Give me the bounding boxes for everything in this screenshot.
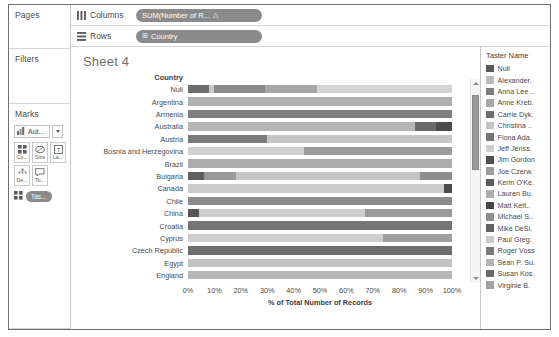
legend-item[interactable]: Michael S.. (486, 211, 550, 222)
stacked-bar[interactable] (188, 234, 452, 242)
scrollbar-thumb[interactable] (472, 95, 479, 170)
detail-button[interactable]: De... (14, 165, 30, 186)
bar-segment[interactable] (267, 135, 452, 143)
stacked-bar[interactable] (188, 221, 452, 229)
bar-segment[interactable] (365, 209, 452, 217)
tooltip-button[interactable]: To... (32, 165, 48, 186)
stacked-bar[interactable] (188, 110, 452, 118)
stacked-bar[interactable] (188, 147, 452, 155)
row-header-label[interactable]: Armenia (71, 110, 183, 119)
bar-segment[interactable] (188, 246, 452, 254)
row-header-label[interactable]: Brazil (71, 160, 183, 169)
row-header-label[interactable]: Argentina (71, 98, 183, 107)
legend-item[interactable]: Jeff Jenss. (486, 143, 550, 154)
row-header-label[interactable]: England (71, 271, 183, 280)
bar-segment[interactable] (188, 110, 452, 118)
stacked-bar[interactable] (188, 184, 452, 192)
bar-segment[interactable] (415, 122, 436, 130)
legend-item[interactable]: Roger Voss (486, 245, 550, 256)
bar-segment[interactable] (444, 184, 452, 192)
row-header-label[interactable]: Croatia (71, 222, 183, 231)
legend-item[interactable]: Anna Lee .. (486, 86, 550, 97)
label-button[interactable]: T La... (50, 142, 66, 163)
row-header-label[interactable]: Bulgaria (71, 172, 183, 181)
bar-segment[interactable] (304, 147, 452, 155)
bar-segment[interactable] (188, 147, 304, 155)
bar-segment[interactable] (383, 234, 452, 242)
legend-item[interactable]: Mike DeSi. (486, 222, 550, 233)
columns-shelf[interactable]: Columns SUM(Number of R... △ (71, 5, 550, 26)
bar-segment[interactable] (188, 234, 383, 242)
legend-item[interactable]: Anne Kreb. (486, 97, 550, 108)
bar-segment[interactable] (204, 172, 236, 180)
x-axis-title[interactable]: % of Total Number of Records (178, 298, 462, 307)
bar-segment[interactable] (199, 209, 365, 217)
bar-segment[interactable] (188, 221, 452, 229)
bar-segment[interactable] (188, 159, 452, 167)
stacked-bar[interactable] (188, 172, 452, 180)
stacked-bar[interactable] (188, 85, 452, 93)
row-header-label[interactable]: Czech Republic (71, 246, 183, 255)
mark-type-selector[interactable]: Aut... (14, 125, 66, 138)
bar-segment[interactable] (188, 209, 199, 217)
legend-item[interactable]: Christina .. (486, 120, 550, 131)
bar-segment[interactable] (188, 172, 204, 180)
mark-type-dropdown-button[interactable] (52, 125, 63, 138)
row-header-label[interactable]: Bosnia and Herzegovina (71, 147, 183, 156)
color-button[interactable]: Co... (14, 142, 30, 163)
bar-segment[interactable] (188, 122, 415, 130)
bar-segment[interactable] (188, 197, 452, 205)
filters-card[interactable]: Filters (9, 49, 70, 104)
legend-item[interactable]: Sean P. Su. (486, 257, 550, 268)
columns-pill[interactable]: SUM(Number of R... △ (136, 9, 262, 22)
bar-segment[interactable] (214, 85, 264, 93)
stacked-bar[interactable] (188, 246, 452, 254)
rows-shelf[interactable]: Rows ⊞ Country (71, 26, 550, 47)
rows-pill[interactable]: ⊞ Country (136, 30, 262, 43)
row-header-label[interactable]: Chile (71, 197, 183, 206)
bar-segment[interactable] (188, 135, 267, 143)
bar-segment[interactable] (317, 85, 452, 93)
stacked-bar[interactable] (188, 159, 452, 167)
legend-item[interactable]: Matt Kett.. (486, 200, 550, 211)
bar-segment[interactable] (420, 172, 452, 180)
bar-segment[interactable] (236, 172, 421, 180)
stacked-bar[interactable] (188, 209, 452, 217)
legend-item[interactable]: Jim Gordon (486, 154, 550, 165)
legend-item[interactable]: Lauren Bu. (486, 188, 550, 199)
bar-segment[interactable] (188, 184, 444, 192)
scroll-down-button[interactable] (471, 274, 480, 283)
mark-type-button[interactable]: Aut... (14, 125, 50, 138)
view-vertical-scrollbar[interactable] (470, 79, 480, 283)
bar-segment[interactable] (265, 85, 318, 93)
legend-item[interactable]: Alexander. (486, 74, 550, 85)
legend-item[interactable]: Paul Greg. (486, 234, 550, 245)
legend-item[interactable]: Joe Czerw. (486, 166, 550, 177)
row-header-label[interactable]: Canada (71, 184, 183, 193)
bar-segment[interactable] (188, 97, 452, 105)
pages-card[interactable]: Pages (9, 5, 70, 49)
row-header-label[interactable]: Egypt (71, 259, 183, 268)
visualization-canvas[interactable]: Sheet 4 CountryNullArgentinaArmeniaAustr… (71, 47, 480, 329)
stacked-bar[interactable] (188, 271, 452, 279)
legend-item[interactable]: Virginie B. (486, 279, 550, 290)
legend-item[interactable]: Susan Kos. (486, 268, 550, 279)
legend-item[interactable]: Fiona Ada. (486, 131, 550, 142)
row-header-label[interactable]: Austria (71, 135, 183, 144)
stacked-bar[interactable] (188, 259, 452, 267)
scroll-up-button[interactable] (471, 79, 480, 88)
bar-segment[interactable] (188, 271, 452, 279)
row-header-label[interactable]: Cyprus (71, 234, 183, 243)
legend-item[interactable]: Carrie Dyk. (486, 109, 550, 120)
stacked-bar[interactable] (188, 122, 452, 130)
stacked-bar[interactable] (188, 197, 452, 205)
stacked-bar[interactable] (188, 135, 452, 143)
row-header-label[interactable]: Null (71, 85, 183, 94)
bar-segment[interactable] (188, 259, 452, 267)
stacked-bar[interactable] (188, 97, 452, 105)
size-button[interactable]: Size (32, 142, 48, 163)
row-header-label[interactable]: China (71, 209, 183, 218)
legend-item[interactable]: Kerin O'Ke. (486, 177, 550, 188)
marks-color-pill[interactable]: Tas... (26, 191, 52, 202)
legend-item[interactable]: Null (486, 63, 550, 74)
